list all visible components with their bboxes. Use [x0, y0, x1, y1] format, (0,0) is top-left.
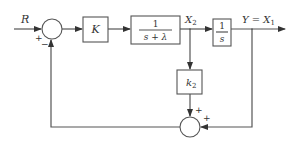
output-label: Y = X1 [242, 14, 275, 27]
integrator-numerator: 1 [219, 21, 225, 31]
sum2-right-plus-sign: + [203, 113, 211, 123]
sum1-minus-sign: − [41, 39, 49, 49]
summing-junction-2 [180, 117, 200, 137]
x2-label: X2 [184, 14, 197, 27]
plant-numerator: 1 [153, 19, 159, 29]
integrator-denominator: s [220, 34, 225, 44]
combined-feedback-line [51, 40, 180, 127]
gain-block-label: K [90, 23, 100, 36]
sum2-top-plus-sign: + [195, 105, 203, 115]
y-branch-point [251, 28, 253, 30]
summing-junction-1 [42, 19, 62, 39]
block-diagram: R + − K 1 s + λ X2 1 s Y = X1 k2 + + [0, 0, 300, 145]
input-label: R [20, 13, 29, 26]
plant-denominator: s + λ [144, 32, 168, 42]
